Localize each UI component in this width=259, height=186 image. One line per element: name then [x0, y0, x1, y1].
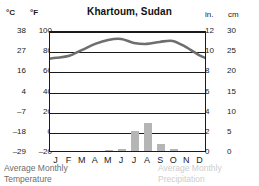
precipitation-bar-september	[157, 144, 165, 151]
axis-tick-label: 27	[4, 47, 26, 55]
bar-slot-november	[181, 31, 194, 151]
month-label-may: M	[101, 154, 114, 168]
month-label-june: J	[114, 154, 127, 168]
right-axis-unit-inches: in.	[205, 10, 213, 19]
bar-slot-december	[194, 31, 206, 151]
axis-tick-label: –29	[4, 148, 26, 156]
bar-slot-february	[63, 31, 76, 151]
caption-average-monthly-precipitation: Average Monthly Precipitation	[158, 163, 222, 184]
axis-tick-label: 15	[227, 88, 243, 96]
axis-tick-label: 6	[205, 88, 219, 96]
climate-chart: °C °F Khartoum, Sudan in. cm 3827164–7–1…	[0, 0, 259, 186]
precipitation-bar-july	[131, 131, 139, 151]
precipitation-bar-august	[144, 123, 152, 151]
axis-tick-label: 16	[4, 67, 26, 75]
month-label-august: A	[141, 154, 154, 168]
axis-tick-label: 38	[4, 27, 26, 35]
bar-slot-may	[102, 31, 115, 151]
precipitation-bar-june	[118, 149, 126, 151]
bar-slot-august	[142, 31, 155, 151]
precipitation-bar-october	[170, 149, 178, 151]
axis-tick-label: 0	[205, 148, 219, 156]
bar-slot-january	[50, 31, 63, 151]
axis-tick-label: 12	[205, 27, 219, 35]
bar-slot-june	[115, 31, 128, 151]
axis-tick-label: 5	[227, 128, 243, 136]
bar-slot-july	[129, 31, 142, 151]
axis-tick-label: 10	[227, 108, 243, 116]
axis-tick-label: 4	[205, 108, 219, 116]
right-axis-unit-centimeters: cm	[228, 10, 239, 19]
month-label-july: J	[127, 154, 140, 168]
precipitation-bar-may	[105, 150, 113, 152]
caption-average-monthly-temperature: Average Monthly Temperature	[4, 163, 68, 184]
axis-tick-label: –7	[4, 108, 26, 116]
precipitation-bars	[50, 32, 205, 151]
axis-tick-label: 20	[227, 67, 243, 75]
axis-tick-label: 10	[205, 47, 219, 55]
bar-slot-march	[76, 31, 89, 151]
plot-area	[49, 31, 206, 152]
axis-tick-label: –18	[4, 128, 26, 136]
month-label-march: M	[75, 154, 88, 168]
chart-title: Khartoum, Sudan	[0, 6, 259, 17]
axis-tick-label: 30	[227, 27, 243, 35]
axis-tick-label: 0	[227, 148, 243, 156]
axis-tick-label: 4	[4, 88, 26, 96]
axis-tick-label: 2	[205, 128, 219, 136]
bar-slot-october	[168, 31, 181, 151]
axis-tick-label: 8	[205, 67, 219, 75]
month-label-april: A	[88, 154, 101, 168]
axis-tick-label: 25	[227, 47, 243, 55]
bar-slot-september	[155, 31, 168, 151]
bar-slot-april	[89, 31, 102, 151]
